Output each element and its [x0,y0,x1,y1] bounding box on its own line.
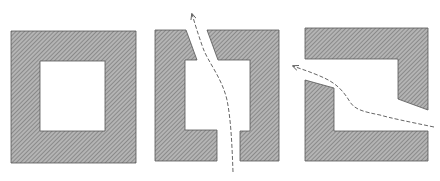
vertical-gap-frame [155,14,279,172]
closed-frame [11,31,136,163]
diagram-canvas: Three hatched square frames: a closed fr… [0,0,440,181]
horizontal-gap-frame [293,28,434,161]
diagram-svg [0,0,440,181]
left-piece [155,30,217,161]
right-piece [207,30,279,161]
